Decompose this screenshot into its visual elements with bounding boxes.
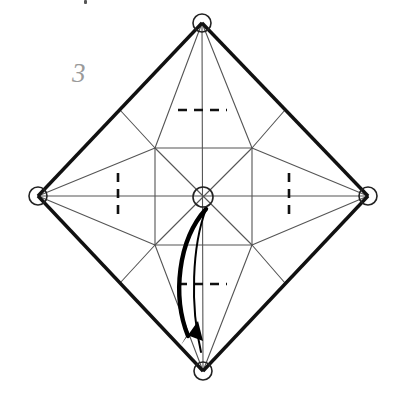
crease-bottom-to-square-br xyxy=(203,245,252,371)
crease-top-to-square-tl xyxy=(155,23,202,148)
crease-midpoint-ul-to-square-tl xyxy=(120,110,155,148)
fold-arrow-outer-curve xyxy=(179,209,206,336)
crease-top-to-square-tr xyxy=(202,23,252,148)
crease-right-to-square-tr xyxy=(252,148,368,196)
crease-right-to-square-br xyxy=(252,196,368,245)
scan-artifact-dot xyxy=(84,0,87,4)
crease-left-to-square-tl xyxy=(38,148,155,196)
crease-line-group xyxy=(38,23,368,371)
crease-midpoint-lr-to-square-br xyxy=(252,245,285,283)
crease-midpoint-ur-to-square-tr xyxy=(252,110,285,148)
crease-midpoint-ll-to-square-bl xyxy=(120,245,155,283)
step-number-label: 3 xyxy=(71,58,86,88)
outline-edge-bottom-right xyxy=(203,196,368,371)
fold-direction-arrow xyxy=(179,209,206,352)
origami-figure: 3 xyxy=(0,0,399,403)
crease-left-to-square-bl xyxy=(38,196,155,245)
diagram-canvas: 3 xyxy=(0,0,399,403)
